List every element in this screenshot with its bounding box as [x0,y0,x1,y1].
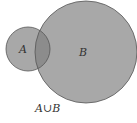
venn-diagram: A B A∪B [0,0,137,123]
set-a-label: A [18,43,27,56]
set-b-label: B [78,46,87,59]
union-caption: A∪B [34,102,60,115]
